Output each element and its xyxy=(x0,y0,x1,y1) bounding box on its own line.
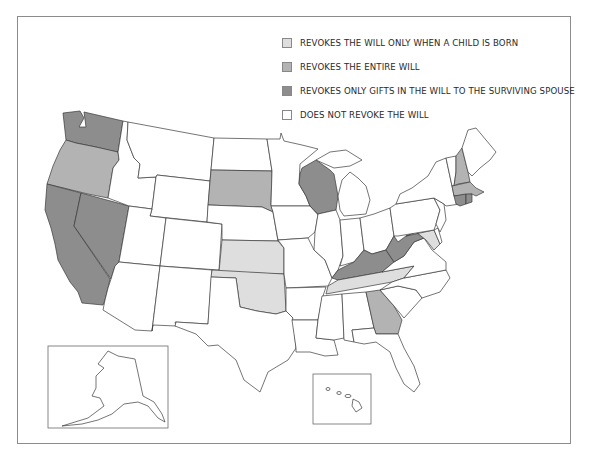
state-KS xyxy=(219,240,284,274)
legend-item-entire: REVOKES THE ENTIRE WILL xyxy=(282,55,575,79)
legend-label: REVOKES THE WILL ONLY WHEN A CHILD IS BO… xyxy=(300,38,518,48)
state-HI-group xyxy=(326,388,362,413)
legend-item-spouse-gifts: REVOKES ONLY GIFTS IN THE WILL TO THE SU… xyxy=(282,79,575,103)
state-IA xyxy=(271,206,318,240)
state-ME xyxy=(462,128,496,176)
legend-swatch-dark xyxy=(282,86,292,96)
state-MT xyxy=(127,122,214,181)
state-CT xyxy=(454,194,466,206)
legend-label: REVOKES ONLY GIFTS IN THE WILL TO THE SU… xyxy=(300,86,575,96)
state-ND xyxy=(211,138,272,171)
state-WY xyxy=(150,175,210,222)
legend-label: REVOKES THE ENTIRE WILL xyxy=(300,62,420,72)
state-CO xyxy=(160,218,222,270)
state-AK xyxy=(62,351,165,426)
legend-item-child-born: REVOKES THE WILL ONLY WHEN A CHILD IS BO… xyxy=(282,31,575,55)
legend-item-none: DOES NOT REVOKE THE WILL xyxy=(282,103,575,127)
state-NM xyxy=(152,266,212,331)
state-HI-maui xyxy=(345,394,351,397)
legend-swatch-white xyxy=(282,110,292,120)
state-HI-oahu xyxy=(337,392,341,395)
state-HI-big-island xyxy=(352,399,362,412)
state-RI xyxy=(466,194,472,204)
state-HI-kauai xyxy=(326,388,330,391)
state-FL xyxy=(352,328,420,392)
legend-swatch-medium xyxy=(282,62,292,72)
hawaii-inset-frame xyxy=(313,374,371,424)
legend-swatch-light xyxy=(282,38,292,48)
legend-label: DOES NOT REVOKE THE WILL xyxy=(300,110,429,120)
legend: REVOKES THE WILL ONLY WHEN A CHILD IS BO… xyxy=(282,31,575,127)
